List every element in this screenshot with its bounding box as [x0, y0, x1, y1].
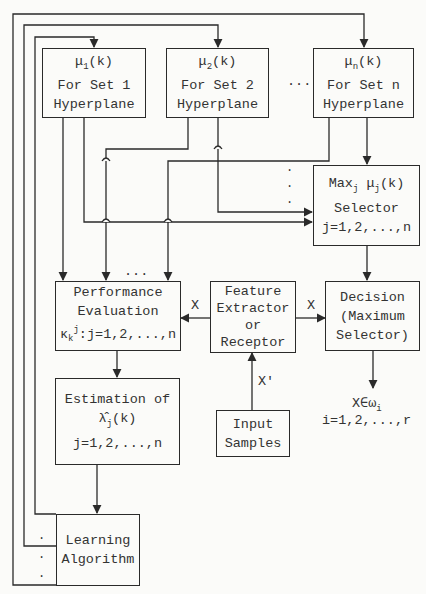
performance-kappa: κkj:j=1,2,...,n	[60, 321, 176, 349]
decision-block: Decision (Maximum Selector)	[325, 281, 420, 351]
setn-hyperplane-label: Hyperplane	[323, 95, 404, 114]
sets-ellipsis: ...	[287, 74, 311, 89]
feature-label: Feature	[225, 283, 282, 300]
set2-hyperplane-block: μ2(k) For Set 2 Hyperplane	[166, 48, 269, 118]
setn-membership: μn(k)	[345, 52, 383, 77]
input-label: Input	[233, 415, 274, 434]
setn-hyperplane-block: μn(k) For Set n Hyperplane	[313, 48, 414, 118]
x-label-right: X	[307, 298, 315, 313]
maximum-label: (Maximum	[340, 307, 405, 326]
max-selector-formula: Maxj μj(k)	[329, 174, 405, 199]
x-label-left: X	[191, 298, 199, 313]
max-selector-block: Maxj μj(k) Selector j=1,2,...,n	[313, 165, 420, 246]
learning-label: Learning	[66, 531, 131, 550]
output-class-label: X∈ωi	[352, 394, 382, 414]
estimation-label: Estimation of	[65, 390, 170, 409]
set1-hyperplane-label: Hyperplane	[53, 95, 134, 114]
feature-extractor-block: Feature Extractor or Receptor	[210, 281, 296, 353]
performance-inputs-ellipsis: ...	[124, 264, 148, 279]
performance-label: Performance	[73, 283, 162, 302]
max-selector-label: Selector	[334, 199, 399, 218]
max-selector-range: j=1,2,...,n	[322, 218, 411, 237]
set2-hyperplane-label: Hyperplane	[177, 95, 258, 114]
set1-membership: μ1(k)	[75, 52, 113, 77]
samples-label: Samples	[225, 434, 282, 453]
set2-label: For Set 2	[181, 76, 254, 95]
or-label: or	[245, 317, 261, 334]
feedback-vdots: ...	[38, 527, 45, 584]
input-samples-block: Input Samples	[216, 410, 290, 457]
learning-algorithm-block: Learning Algorithm	[56, 514, 140, 586]
estimation-block: Estimation of λ̂j(k) j=1,2,...,n	[55, 378, 180, 465]
set2-membership: μ2(k)	[199, 52, 237, 77]
extractor-label: Extractor	[217, 300, 290, 317]
setn-label: For Set n	[327, 76, 400, 95]
selector-inputs-vdots: ...	[286, 160, 293, 208]
output-range-label: i=1,2,...,r	[322, 413, 411, 428]
receptor-label: Receptor	[221, 334, 286, 351]
set1-hyperplane-block: μ1(k) For Set 1 Hyperplane	[42, 48, 146, 118]
set1-label: For Set 1	[58, 76, 131, 95]
selector-label: Selector)	[336, 326, 409, 345]
algorithm-label: Algorithm	[62, 550, 135, 569]
lambda-hat: λ̂j(k)	[99, 409, 137, 434]
decision-label: Decision	[340, 288, 405, 307]
evaluation-label: Evaluation	[77, 302, 158, 321]
estimation-range: j=1,2,...,n	[73, 434, 162, 453]
performance-evaluation-block: Performance Evaluation κkj:j=1,2,...,n	[55, 281, 181, 351]
x-prime-label: X'	[258, 374, 274, 389]
